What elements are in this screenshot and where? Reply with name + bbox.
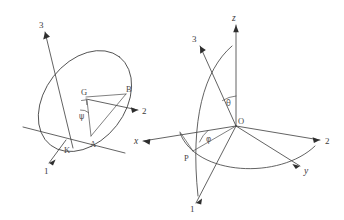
right-axis-2-line <box>236 126 320 140</box>
left-angle-psi-label: ψ <box>79 112 84 121</box>
right-axis-x-label: x <box>133 136 139 146</box>
right-meridian-arc <box>196 46 232 196</box>
figure-canvas: 3 2 1 G B A K ψ <box>0 0 344 220</box>
left-axis-1-label: 1 <box>44 166 49 176</box>
figure-root: 3 2 1 G B A K ψ <box>0 0 344 220</box>
right-axis-y-label: y <box>303 166 309 176</box>
right-axis-2-arrowhead <box>313 137 320 143</box>
right-point-P-label: P <box>184 153 189 163</box>
right-equatorial-arc <box>180 133 315 169</box>
left-node-line <box>23 127 125 153</box>
left-point-B-label: B <box>126 84 132 94</box>
left-segment-AB <box>91 94 126 136</box>
right-axis-x-arrowhead <box>143 139 150 145</box>
left-point-G-label: G <box>81 87 87 97</box>
left-axis-2-arrowhead <box>131 107 138 113</box>
right-segment-projection-P <box>180 132 193 151</box>
left-axis-3-line <box>45 32 73 148</box>
left-diagram-group: 3 2 1 G B A K ψ <box>19 20 151 176</box>
left-point-A-label: A <box>90 139 97 149</box>
left-segment-GA <box>87 100 91 136</box>
left-segment-GB <box>86 94 126 97</box>
right-point-O-label: O <box>238 116 244 126</box>
right-axis-3-line <box>200 46 236 126</box>
right-angle-theta-label: θ <box>226 99 231 108</box>
right-axis-y-arrowhead <box>292 164 300 169</box>
right-axis-1-label: 1 <box>190 204 195 214</box>
left-ellipse-plane <box>19 32 151 170</box>
right-diagram-group: z x y 2 3 1 O P θ φ <box>133 13 330 214</box>
right-axis-z-arrowhead <box>233 25 239 32</box>
left-point-K-label: K <box>64 145 71 155</box>
right-axis-y-line <box>236 126 300 166</box>
right-axis-3-label: 3 <box>192 34 197 44</box>
left-right-angle-tick-G <box>82 100 87 105</box>
right-axis-2-label: 2 <box>325 136 330 146</box>
right-angle-phi-label: φ <box>206 135 211 144</box>
left-axis-2-line <box>86 99 138 110</box>
left-axis-3-label: 3 <box>39 20 44 30</box>
left-axis-2-label: 2 <box>142 106 147 116</box>
left-axis-1-arrowhead <box>49 160 56 166</box>
right-axis-z-label: z <box>231 13 236 23</box>
right-axis-x-line <box>143 126 236 141</box>
